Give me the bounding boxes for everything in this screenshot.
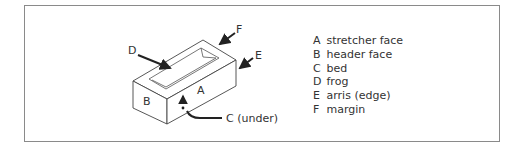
legend-item-b: B header face [313,48,403,62]
arrow-f [220,33,235,44]
brick [133,40,236,124]
callout-c: C (under) [226,112,278,125]
callout-f: F [236,23,242,36]
legend-item-d: D frog [313,75,403,89]
legend-item-e: E arris (edge) [313,89,403,103]
legend: A stretcher face B header face C bed D f… [313,34,403,117]
callout-e: E [255,49,262,62]
callout-d: D [128,44,136,57]
legend-item-f: F margin [313,103,403,117]
face-label-b: B [143,95,151,108]
face-label-a: A [197,84,205,97]
arrow-e [240,58,253,68]
leader-c [187,111,222,118]
legend-item-c: C bed [313,62,403,76]
arrow-d [138,55,170,68]
brick-diagram: A B D F E C (under) [0,0,525,151]
bed-dot [182,107,185,110]
legend-item-a: A stretcher face [313,34,403,48]
